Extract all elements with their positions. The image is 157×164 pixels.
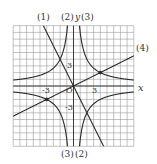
x-tick-neg3: -3 — [42, 86, 50, 95]
label-curve-2-top: (2) — [61, 12, 74, 22]
x-tick-3: 3 — [92, 86, 97, 95]
label-curve-4: (4) — [136, 43, 149, 53]
y-tick-neg3: -3 — [65, 103, 73, 112]
label-curve-3-bottom: (3) — [61, 149, 74, 159]
coordinate-graph: (1) (2) y (3) (4) x (3) (2) O -3 3 3 -3 — [0, 0, 157, 164]
label-curve-1-top: (1) — [37, 12, 50, 22]
label-curve-2-bottom: (2) — [75, 149, 88, 159]
intersection-point — [45, 98, 49, 102]
y-tick-3: 3 — [67, 61, 72, 70]
label-curve-3-top: (3) — [81, 12, 94, 22]
x-axis-label: x — [138, 82, 144, 93]
y-axis-label: y — [74, 12, 81, 22]
intersection-point — [99, 71, 103, 75]
origin-label: O — [66, 86, 73, 95]
